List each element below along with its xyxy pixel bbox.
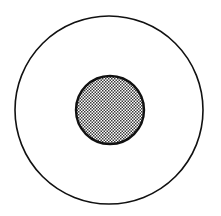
inner-shaded-circle	[76, 76, 144, 144]
concentric-circles-diagram	[0, 0, 221, 216]
